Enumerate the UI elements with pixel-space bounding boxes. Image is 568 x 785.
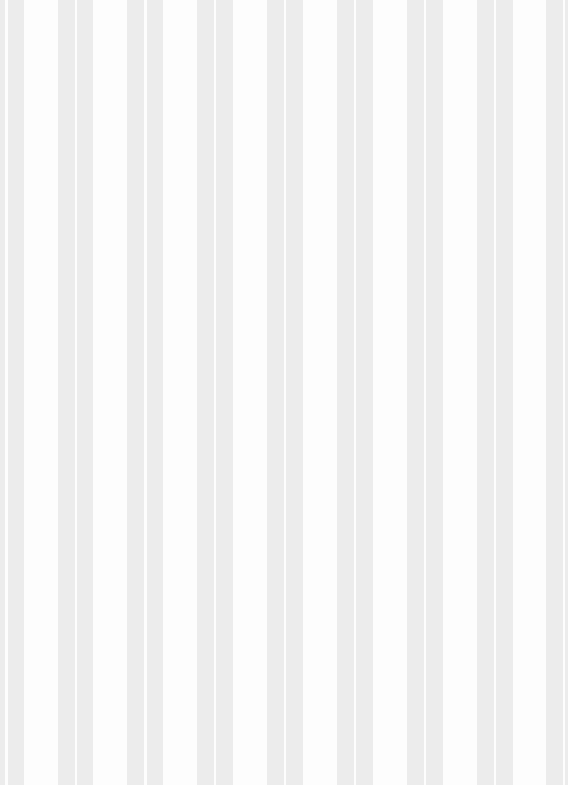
- stripe: [546, 0, 563, 785]
- stripe: [216, 0, 233, 785]
- stripe: [407, 0, 424, 785]
- stripe: [477, 0, 494, 785]
- stripe: [496, 0, 513, 785]
- stripe: [197, 0, 214, 785]
- stripe: [426, 0, 443, 785]
- stripe: [356, 0, 373, 785]
- striped-pattern-background: [0, 0, 568, 785]
- stripe: [267, 0, 284, 785]
- stripe: [147, 0, 163, 785]
- stripe: [77, 0, 93, 785]
- stripe: [337, 0, 354, 785]
- stripe: [58, 0, 75, 785]
- stripe: [127, 0, 144, 785]
- stripe: [0, 0, 5, 785]
- stripe: [286, 0, 303, 785]
- stripe: [8, 0, 24, 785]
